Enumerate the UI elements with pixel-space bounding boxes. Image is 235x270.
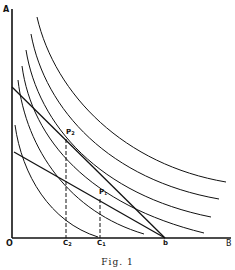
diagram-canvas <box>0 0 235 270</box>
indifference-curve-5 <box>31 34 219 199</box>
figure-caption: Fig. 1 <box>0 257 235 267</box>
origin-label: O <box>6 240 13 248</box>
point-p2: P2 <box>66 129 75 136</box>
budget-line-steep <box>12 87 165 238</box>
tick-c1: C1 <box>97 240 106 247</box>
point-p1-sub: 1 <box>104 191 107 196</box>
tick-c2: C2 <box>63 240 72 247</box>
tick-c1-sub: 1 <box>102 241 105 247</box>
tick-b: b <box>163 240 168 247</box>
indifference-curve-1 <box>15 125 98 237</box>
point-p2-sub: 2 <box>71 130 74 136</box>
tick-b-main: b <box>163 239 168 247</box>
x-axis-label: B <box>226 240 232 248</box>
y-axis-label: A <box>3 6 9 14</box>
point-p1: P1 <box>99 189 107 196</box>
indifference-curve-figure: A O B C2 C1 b P2 P1 Fig. 1 <box>0 0 235 270</box>
tick-c2-sub: 2 <box>68 241 71 247</box>
